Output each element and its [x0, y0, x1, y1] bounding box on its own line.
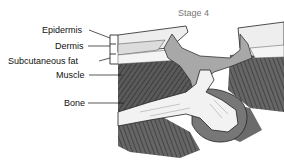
pressure-ulcer-diagram: Stage 4 Epidermis Dermis Subcutaneous fa…: [0, 0, 284, 167]
layer-bracket: [110, 35, 118, 64]
label-epidermis: Epidermis: [42, 25, 82, 35]
label-dermis: Dermis: [55, 41, 84, 51]
label-bone: Bone: [64, 98, 85, 108]
stage-title: Stage 4: [178, 8, 209, 18]
label-muscle: Muscle: [56, 70, 85, 80]
label-subcutaneous-fat: Subcutaneous fat: [8, 56, 78, 66]
